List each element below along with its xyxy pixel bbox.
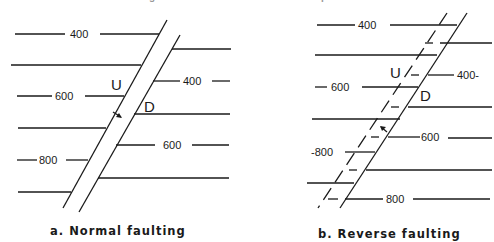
contour-label-600-right: 600 (421, 131, 439, 143)
fault-diagrams: 400 600 800 400 600 U D 400 600 -800 400… (0, 0, 494, 242)
contour-label-800: 800 (39, 154, 57, 166)
upthrown-label: U (111, 76, 122, 93)
caption-reverse-faulting: b. Reverse faulting (318, 227, 461, 241)
contour-label-400-right: 400- (457, 69, 479, 81)
contour-label-600: 600 (331, 81, 349, 93)
downthrown-label: D (144, 98, 155, 115)
reverse-fault-panel (307, 13, 492, 208)
contour-label-400-right: 400 (183, 75, 201, 87)
contour-label-400: 400 (358, 19, 376, 31)
contour-label-600: 600 (55, 90, 73, 102)
contour-label-800: -800 (311, 146, 333, 158)
normal-fault-panel (11, 20, 231, 212)
caption-normal-faulting: a. Normal faulting (50, 224, 186, 238)
structure-contour-figure: Fig. — Faults on structure contour maps. (0, 0, 494, 242)
upthrown-label: U (390, 64, 401, 81)
contour-label-800-right: 800 (386, 193, 404, 205)
contour-label-400: 400 (70, 28, 88, 40)
downthrown-label: D (420, 87, 431, 104)
fault-downthrown-edge (79, 35, 180, 212)
contour-label-600-right: 600 (163, 139, 181, 151)
fault-solid-edge (340, 13, 467, 208)
fault-dashed-edge (318, 13, 447, 208)
